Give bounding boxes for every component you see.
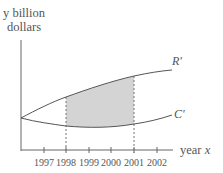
tick-label-1998: 1998	[56, 157, 76, 168]
chart-figure: y billion dollars 1997 1998 1999 2000 20…	[0, 0, 223, 173]
y-axis-label-line2: dollars	[7, 20, 41, 34]
tick-label-2002: 2002	[147, 157, 167, 168]
y-axis-label-line1: y billion	[3, 6, 46, 20]
tick-label-2001: 2001	[124, 157, 144, 168]
tick-label-1999: 1999	[79, 157, 99, 168]
label-c-prime: C'	[174, 107, 185, 121]
shaded-area	[66, 76, 134, 127]
tick-label-2000: 2000	[101, 157, 121, 168]
x-axis-label: year x	[180, 143, 211, 157]
tick-label-1997: 1997	[34, 157, 54, 168]
label-r-prime: R'	[171, 54, 182, 68]
